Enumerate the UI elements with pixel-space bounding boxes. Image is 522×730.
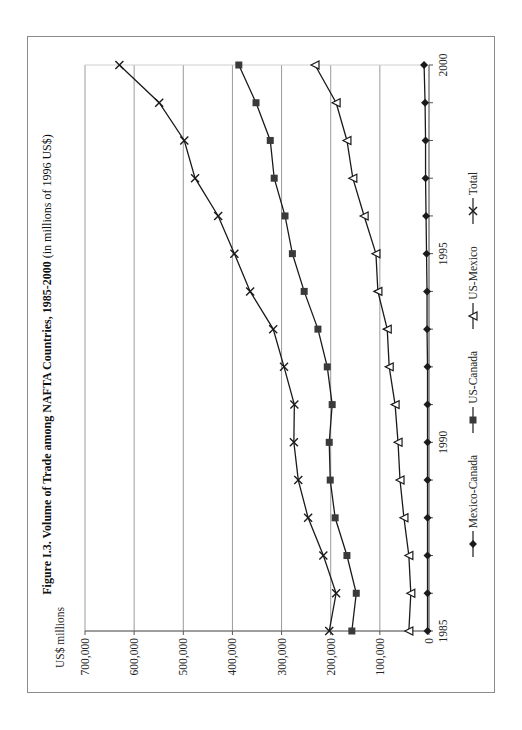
gridlines — [85, 65, 429, 631]
diamond-marker — [423, 325, 431, 333]
square-marker — [329, 401, 336, 408]
diamond-marker — [424, 552, 432, 560]
square-marker — [289, 250, 296, 257]
chart-frame: Figure I.3. Volume of Trade among NAFTA … — [27, 36, 495, 693]
x-cross-marker-icon — [468, 198, 478, 224]
square-marker — [327, 477, 334, 484]
figure-container: Figure I.3. Volume of Trade among NAFTA … — [27, 36, 495, 693]
line-chart: 0100,000200,000300,000400,000500,000600,… — [28, 35, 496, 692]
square-marker — [235, 62, 242, 69]
y-tick-label: 200,000 — [325, 638, 338, 676]
x-tick-labels: 1985199019952000 — [437, 53, 449, 642]
y-tick-label: 500,000 — [177, 638, 190, 676]
square-marker — [314, 326, 321, 333]
square-marker — [301, 288, 308, 295]
square-marker — [326, 439, 333, 446]
square-marker — [282, 212, 289, 219]
triangle-marker — [332, 99, 340, 107]
y-tick-labels: 0100,000200,000300,000400,000500,000600,… — [79, 638, 435, 676]
series-mexico-canada — [420, 61, 431, 635]
y-tick-label: 700,000 — [79, 638, 92, 676]
legend-item-us-canada: US-Canada — [467, 351, 479, 433]
legend-item-us-mexico: US-Mexico — [467, 246, 479, 329]
x-tick-label: 1985 — [437, 619, 449, 642]
square-marker-icon — [468, 407, 478, 433]
square-marker — [324, 363, 331, 370]
legend-label: US-Canada — [467, 351, 479, 404]
legend-label: US-Mexico — [467, 246, 479, 300]
diamond-marker — [424, 589, 432, 597]
square-marker — [267, 137, 274, 144]
diamond-marker — [422, 174, 430, 182]
y-tick-label: 300,000 — [276, 638, 289, 676]
legend-label: Mexico-Canada — [467, 455, 479, 528]
legend-item-mexico-canada: Mexico-Canada — [467, 455, 479, 557]
legend-item-total: Total — [467, 172, 479, 224]
y-tick-label: 0 — [423, 638, 435, 644]
diamond-marker-icon — [468, 531, 478, 557]
y-tick-label: 400,000 — [226, 638, 239, 676]
data-series — [115, 61, 431, 635]
diamond-marker — [424, 627, 432, 635]
square-marker — [343, 552, 350, 559]
diamond-marker — [424, 438, 432, 446]
square-marker — [271, 175, 278, 182]
triangle-marker — [311, 61, 319, 69]
diamond-marker — [422, 136, 430, 144]
series-total — [115, 61, 340, 635]
y-tick-label: 600,000 — [128, 638, 141, 676]
x-tick-label: 1995 — [437, 242, 449, 265]
triangle-marker-icon — [468, 303, 478, 329]
diamond-marker — [421, 99, 429, 107]
diamond-marker — [424, 401, 432, 409]
legend: Mexico-Canada US-Canada US-Mexico Total — [467, 37, 479, 692]
x-tick-label: 1990 — [437, 431, 449, 454]
square-marker — [332, 514, 339, 521]
triangle-marker — [360, 212, 368, 220]
diamond-marker — [424, 363, 432, 371]
diamond-marker — [423, 287, 431, 295]
square-marker — [353, 590, 360, 597]
axes — [85, 65, 433, 635]
x-tick-label: 2000 — [437, 53, 449, 76]
diamond-marker — [424, 476, 432, 484]
square-marker — [253, 99, 260, 106]
diamond-marker — [420, 61, 428, 69]
y-tick-label: 100,000 — [374, 638, 387, 676]
legend-label: Total — [467, 172, 479, 195]
series-us-mexico — [311, 61, 415, 635]
square-marker — [348, 628, 355, 635]
series-us-canada — [235, 62, 359, 635]
diamond-marker — [424, 514, 432, 522]
